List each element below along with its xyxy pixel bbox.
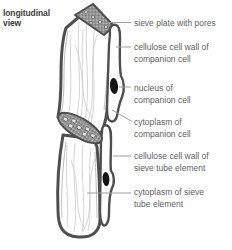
companion-cell-upper: [107, 25, 124, 122]
label-cytoplasm-sieve-tube: cytoplasm of sieve tube element: [134, 187, 204, 210]
view-title-line1: longitudinal: [3, 8, 50, 18]
label-cytoplasm-sieve-tube-line1: cytoplasm of sieve: [134, 187, 204, 199]
sieve-tube-element-lower: [58, 135, 100, 237]
view-title-line2: view: [3, 18, 50, 28]
label-cytoplasm-companion: cytoplasm of companion cell: [134, 117, 191, 140]
label-nucleus: nucleus of companion cell: [134, 83, 191, 106]
label-sieve-plate-line1: sieve plate with pores: [134, 18, 216, 30]
label-cell-wall-companion: cellulose cell wall of companion cell: [134, 42, 209, 65]
label-sieve-plate: sieve plate with pores: [134, 18, 216, 30]
label-cytoplasm-companion-line2: companion cell: [134, 129, 191, 141]
label-cytoplasm-sieve-tube-line2: tube element: [134, 199, 204, 211]
label-cell-wall-sieve-tube-line1: cellulose cell wall of: [134, 151, 209, 163]
phloem-longitudinal-figure: longitudinal view sieve plate with pores…: [0, 0, 232, 250]
label-cell-wall-companion-line1: cellulose cell wall of: [134, 42, 209, 54]
label-nucleus-line1: nucleus of: [134, 83, 191, 95]
label-cytoplasm-companion-line1: cytoplasm of: [134, 117, 191, 129]
label-cell-wall-companion-line2: companion cell: [134, 54, 209, 66]
label-cell-wall-sieve-tube: cellulose cell wall of sieve tube elemen…: [134, 151, 209, 174]
label-nucleus-line2: companion cell: [134, 95, 191, 107]
view-title: longitudinal view: [3, 8, 50, 28]
label-cell-wall-sieve-tube-line2: sieve tube element: [134, 163, 209, 175]
phloem-diagram: [0, 0, 232, 250]
